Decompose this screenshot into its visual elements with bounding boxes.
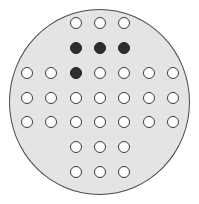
empty-hole[interactable] (21, 92, 33, 104)
empty-hole[interactable] (70, 17, 82, 29)
empty-hole[interactable] (167, 92, 179, 104)
empty-hole[interactable] (167, 67, 179, 79)
empty-hole[interactable] (94, 17, 106, 29)
empty-hole[interactable] (118, 166, 130, 178)
empty-hole[interactable] (70, 116, 82, 128)
empty-hole[interactable] (118, 17, 130, 29)
empty-hole[interactable] (167, 116, 179, 128)
empty-hole[interactable] (118, 116, 130, 128)
empty-hole[interactable] (143, 116, 155, 128)
empty-hole[interactable] (94, 166, 106, 178)
empty-hole[interactable] (118, 92, 130, 104)
empty-hole[interactable] (143, 92, 155, 104)
empty-hole[interactable] (94, 141, 106, 153)
empty-hole[interactable] (143, 67, 155, 79)
empty-hole[interactable] (94, 92, 106, 104)
peg[interactable] (118, 42, 130, 54)
empty-hole[interactable] (118, 141, 130, 153)
peg[interactable] (70, 67, 82, 79)
empty-hole[interactable] (118, 67, 130, 79)
empty-hole[interactable] (45, 116, 57, 128)
empty-hole[interactable] (21, 67, 33, 79)
empty-hole[interactable] (70, 92, 82, 104)
empty-hole[interactable] (94, 116, 106, 128)
empty-hole[interactable] (70, 141, 82, 153)
peg[interactable] (70, 42, 82, 54)
empty-hole[interactable] (21, 116, 33, 128)
empty-hole[interactable] (45, 67, 57, 79)
empty-hole[interactable] (45, 92, 57, 104)
peg[interactable] (94, 42, 106, 54)
empty-hole[interactable] (94, 67, 106, 79)
empty-hole[interactable] (70, 166, 82, 178)
